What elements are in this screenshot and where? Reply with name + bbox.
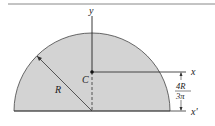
centroid-label: C <box>82 74 89 85</box>
x-prime-axis-label: x' <box>190 106 198 117</box>
offset-numerator: 4R <box>176 81 186 91</box>
centroid-point <box>90 70 94 74</box>
semicircle-centroid-diagram: y x x' C R 4R 3π <box>0 0 215 126</box>
dimension-arrow-down <box>180 107 183 111</box>
offset-denominator: 3π <box>175 91 185 101</box>
dimension-arrow-up <box>180 72 183 76</box>
radius-label: R <box>54 84 61 95</box>
x-axis-label: x <box>190 66 196 77</box>
y-axis-label: y <box>88 5 94 16</box>
